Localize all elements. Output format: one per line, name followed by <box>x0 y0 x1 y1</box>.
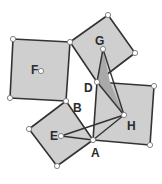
label-B: B <box>73 101 82 115</box>
point-E <box>58 133 63 138</box>
geometry-diagram: F G D B H E A <box>0 0 162 184</box>
point-right-tr <box>151 83 156 88</box>
label-H: H <box>127 119 136 133</box>
point-D <box>94 79 99 84</box>
point-left <box>26 126 31 131</box>
point-F-tl <box>10 36 15 41</box>
label-F: F <box>31 63 38 77</box>
label-D: D <box>84 81 93 95</box>
label-G: G <box>95 34 104 48</box>
point-right-br <box>147 142 152 147</box>
point-A <box>90 137 95 142</box>
point-B-top <box>67 39 72 44</box>
point-bottom <box>54 163 59 168</box>
squares-layer <box>10 15 154 166</box>
point-G-top <box>105 12 110 17</box>
point-H <box>121 112 126 117</box>
point-G-right <box>132 50 137 55</box>
point-F-center <box>38 68 43 73</box>
label-A: A <box>91 146 100 160</box>
point-F-bl <box>7 95 12 100</box>
point-B <box>63 98 68 103</box>
label-E: E <box>50 129 58 143</box>
